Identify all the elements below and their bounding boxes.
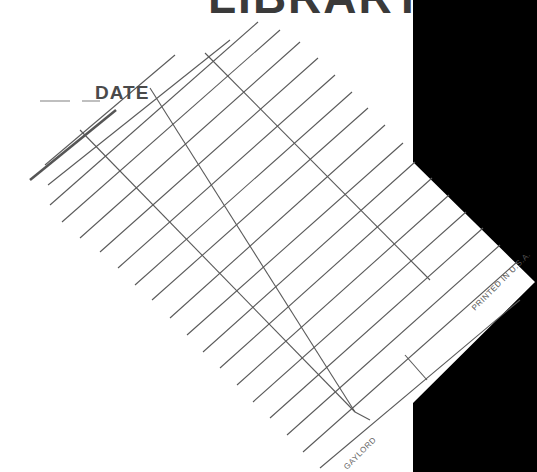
background-region: [413, 0, 537, 472]
date-due-grid: [0, 0, 537, 472]
card-scene: LIBRARY DATE PRINTED IN U.S.A. GAYLORD: [0, 0, 537, 472]
card-title: LIBRARY: [208, 0, 425, 24]
date-label: DATE: [95, 82, 149, 104]
